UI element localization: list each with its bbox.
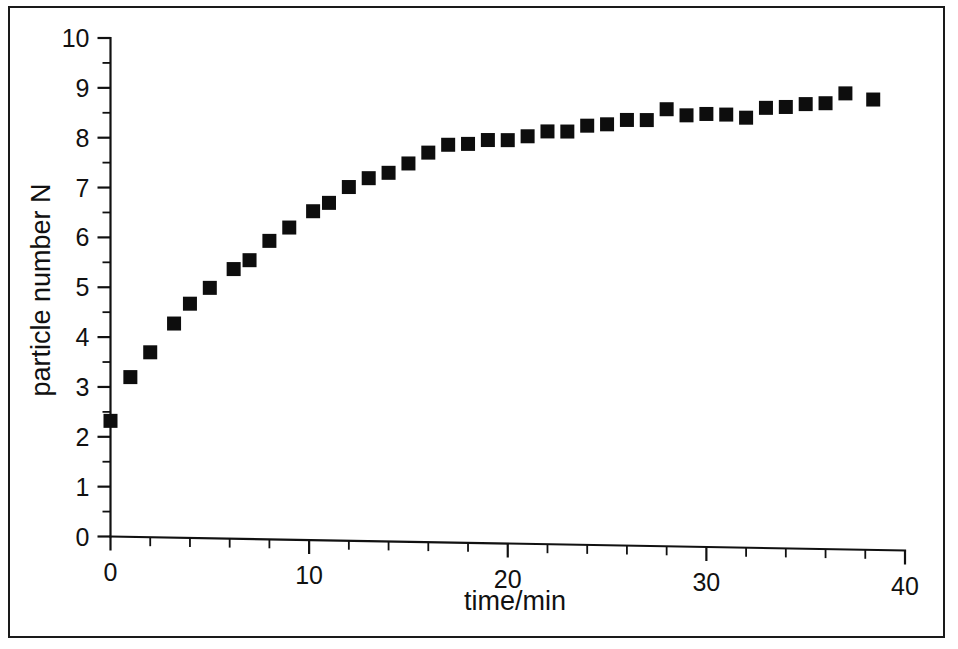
data-point-marker [819,96,833,110]
data-point-marker [560,125,574,139]
data-point-marker [838,86,852,100]
y-axis-label: particle number N [26,183,56,396]
data-point-marker [719,108,733,122]
y-tick-label: 5 [76,273,90,301]
data-point-marker [640,113,654,127]
data-point-marker [342,180,356,194]
data-point-marker [183,297,197,311]
data-point-marker [521,129,535,143]
data-point-marker [306,204,320,218]
scatter-plot: 012345678910010203040 time/min particle … [0,0,958,649]
y-tick-label: 9 [76,74,90,102]
x-axis-label: time/min [464,586,566,616]
ticks-group [98,38,906,565]
data-point-marker [759,101,773,115]
x-tick-label: 0 [104,558,118,586]
data-point-marker [104,414,118,428]
data-point-marker [799,97,813,111]
data-point-marker [421,146,435,160]
data-point-marker [739,111,753,125]
y-tick-label: 1 [76,473,90,501]
y-tick-label: 6 [76,223,90,251]
data-point-marker [282,221,296,235]
y-tick-label: 8 [76,124,90,152]
data-point-marker [362,171,376,185]
data-point-marker [243,253,257,267]
data-point-marker [600,117,614,131]
data-point-marker [540,124,554,138]
x-tick-label: 30 [692,568,720,596]
y-tick-label: 4 [76,323,90,351]
y-tick-label: 10 [62,24,90,52]
data-point-marker [262,234,276,248]
data-point-marker [441,138,455,152]
x-tick-label: 40 [891,572,919,600]
data-point-marker [501,133,515,147]
y-tick-label: 7 [76,174,90,202]
data-point-marker [680,108,694,122]
data-point-marker [620,113,634,127]
data-point-marker [580,119,594,133]
data-point-marker [382,166,396,180]
data-point-marker [461,137,475,151]
data-point-marker [203,281,217,295]
data-point-marker [481,133,495,147]
x-tick-label: 10 [295,561,323,589]
data-point-marker [167,317,181,331]
y-tick-label: 3 [76,373,90,401]
y-tick-label: 0 [76,523,90,551]
figure-container: 012345678910010203040 time/min particle … [0,0,958,649]
data-point-marker [322,196,336,210]
axes-group [111,38,906,551]
data-point-marker [123,370,137,384]
y-tick-label: 2 [76,423,90,451]
data-point-marker [227,262,241,276]
data-point-marker [143,345,157,359]
data-point-marker [401,156,415,170]
data-point-marker [660,102,674,116]
data-point-marker [866,93,880,107]
data-markers-group [104,86,881,427]
data-point-marker [779,100,793,114]
data-point-marker [699,107,713,121]
